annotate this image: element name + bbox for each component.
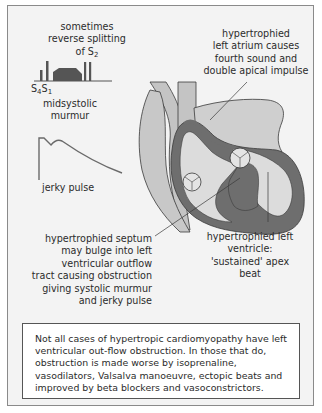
jerky-pulse-trace	[39, 138, 122, 180]
aortic-valve-icon	[230, 148, 250, 168]
left-ventricle-annotation: hypertrophied left ventricle: 'sustained…	[200, 231, 300, 281]
reverse-splitting-caption: sometimes reverse splitting of S2	[42, 21, 132, 61]
pulmonary-valve-icon	[183, 173, 201, 191]
jerky-pulse-caption: jerky pulse	[42, 182, 94, 194]
note-box: Not all cases of hypertropic cardiomyopa…	[22, 323, 300, 399]
septum-annotation: hypertrophied septum may bulge into left…	[30, 233, 152, 307]
sound-labels: S4S1	[31, 83, 52, 98]
midsystolic-murmur-caption: midsystolic murmur	[38, 98, 102, 123]
note-text: Not all cases of hypertropic cardiomyopa…	[35, 333, 287, 393]
phonocardiogram	[34, 61, 112, 81]
left-atrium-annotation: hypertrophied left atrium causes fourth …	[196, 28, 316, 78]
